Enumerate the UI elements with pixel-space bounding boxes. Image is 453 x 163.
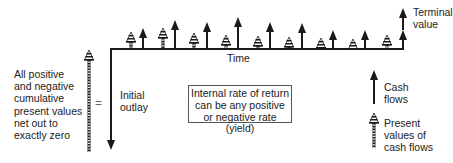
present-value-cone-icon (189, 33, 199, 48)
initial-outlay-label: Initial outlay (120, 89, 148, 113)
irr-text-box: Internal rate of return can be any posit… (188, 85, 292, 123)
initial-outlay-arrowhead-icon (107, 140, 115, 150)
legend-present-values-label: Present values of cash flows (384, 117, 433, 154)
cash-flow-arrow-icon (234, 17, 242, 48)
cash-flow-arrows (139, 8, 407, 48)
cash-flow-arrow-icon (203, 22, 211, 48)
cash-flow-arrow-icon (399, 30, 407, 48)
present-value-cone-icon (158, 28, 168, 48)
present-value-cone-icon (126, 32, 136, 48)
left-note: All positive and negative cumulative pre… (14, 68, 82, 141)
equals-sign: = (95, 97, 102, 109)
cumulative-present-value-icon (84, 50, 94, 152)
cash-flow-arrow-icon (171, 20, 179, 48)
legend-cash-flows-label: Cash flows (384, 81, 409, 105)
present-value-cone-icon (253, 36, 263, 48)
legend-cash-flow-arrow-icon (370, 70, 378, 104)
terminal-value-arrow-icon (399, 8, 407, 30)
present-value-cone-icon (382, 35, 392, 48)
cash-flow-arrow-icon (298, 23, 306, 48)
cash-flow-arrow-icon (266, 22, 274, 48)
cash-flow-arrow-icon (329, 30, 337, 48)
cash-flow-arrow-icon (139, 28, 147, 48)
present-value-cone-icon (221, 35, 231, 48)
present-value-cone-icon (316, 38, 326, 49)
time-axis-label: Time (227, 52, 250, 64)
present-value-cone-icon (348, 39, 358, 50)
present-value-cone-icon (284, 37, 294, 48)
terminal-value-label: Terminal value (413, 6, 453, 30)
legend-present-value-icon (369, 113, 379, 148)
present-value-cones (126, 28, 392, 50)
cash-flow-arrow-icon (361, 30, 369, 48)
